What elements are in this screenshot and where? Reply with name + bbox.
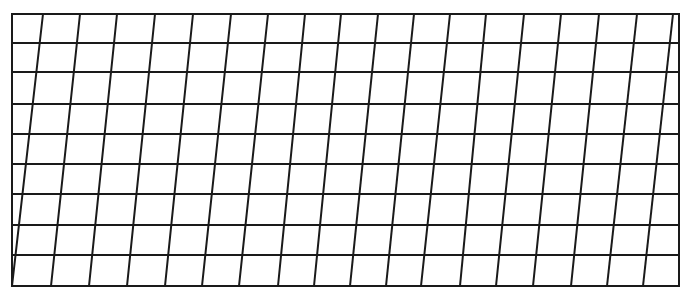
sheared-grid-diagram: [0, 0, 691, 297]
slanted-line: [386, 14, 414, 286]
slanted-line: [421, 14, 450, 286]
slanted-line: [350, 14, 378, 286]
slanted-line: [533, 14, 561, 286]
slanted-line: [89, 14, 117, 286]
slanted-line: [51, 14, 80, 286]
slanted-line: [314, 14, 341, 286]
slanted-line: [127, 14, 155, 286]
slanted-line: [165, 14, 193, 286]
slanted-line: [239, 14, 268, 286]
slanted-line: [643, 14, 673, 286]
slanted-line: [571, 14, 599, 286]
slanted-line: [607, 14, 637, 286]
slanted-line: [12, 14, 43, 286]
slanted-lines: [12, 14, 673, 286]
slanted-line: [460, 14, 486, 286]
slanted-line: [202, 14, 231, 286]
slanted-line: [496, 14, 524, 286]
slanted-line: [278, 14, 305, 286]
